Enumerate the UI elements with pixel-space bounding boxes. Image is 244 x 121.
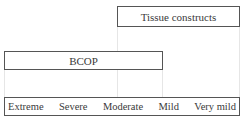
scale-level-extreme: Extreme <box>8 101 44 112</box>
range-box-tissue-constructs: Tissue constructs <box>117 6 240 27</box>
scale-level-moderate: Moderate <box>103 101 143 112</box>
guide-line-tissue-right <box>239 27 240 97</box>
guide-line-bcop-right <box>162 70 163 97</box>
severity-scale: Extreme Severe Moderate Mild Very mild <box>4 97 240 116</box>
range-box-bcop: BCOP <box>4 51 163 70</box>
scale-level-very-mild: Very mild <box>194 101 236 112</box>
range-label: BCOP <box>69 55 98 67</box>
scale-level-mild: Mild <box>158 101 178 112</box>
scale-level-severe: Severe <box>59 101 88 112</box>
range-label: Tissue constructs <box>141 11 217 23</box>
guide-line-bcop-left <box>4 70 5 97</box>
